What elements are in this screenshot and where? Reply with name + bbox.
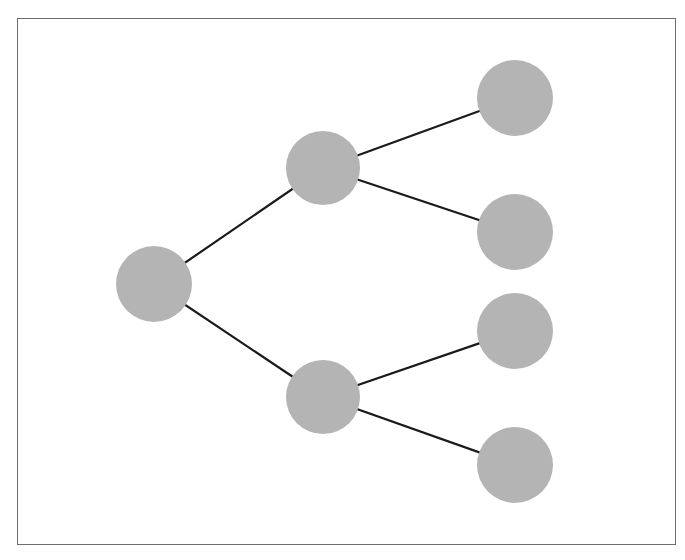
node-leaf-2 [477,194,553,270]
node-leaf-3 [477,293,553,369]
node-root [116,246,192,322]
node-leaf-1 [477,60,553,136]
node-leaf-4 [477,427,553,503]
node-mid-bottom [286,360,360,434]
node-mid-top [286,131,360,205]
tree-diagram [0,0,685,560]
nodes-group [116,60,553,503]
